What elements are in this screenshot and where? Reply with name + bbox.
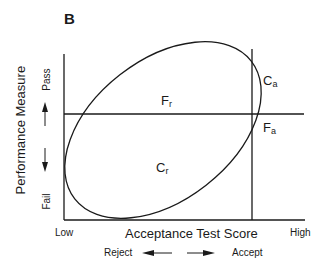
- x-axis-title: Acceptance Test Score: [125, 226, 258, 241]
- x-axis-low-label: Low: [55, 227, 73, 238]
- y-axis-title: Performance Measure: [13, 75, 28, 195]
- down-arrow-icon: [42, 148, 48, 172]
- correct-reject-region-label: Cr: [156, 160, 168, 176]
- up-arrow-icon: [42, 102, 48, 126]
- reject-label: Reject: [104, 247, 132, 258]
- x-axis-high-label: High: [290, 227, 311, 238]
- decision-diagram: B Performance Measure Pass: [0, 0, 330, 270]
- left-arrow-icon: [142, 250, 172, 256]
- correct-accept-region-label: Ca: [263, 73, 277, 89]
- right-arrow-icon: [187, 250, 215, 256]
- accept-label: Accept: [232, 247, 263, 258]
- false-reject-region-label: Fr: [161, 93, 172, 109]
- false-accept-region-label: Fa: [263, 120, 276, 136]
- y-axis-pass-label: Pass: [41, 60, 52, 100]
- score-distribution-ellipse: [32, 6, 295, 254]
- y-axis-fail-label: Fail: [41, 182, 52, 222]
